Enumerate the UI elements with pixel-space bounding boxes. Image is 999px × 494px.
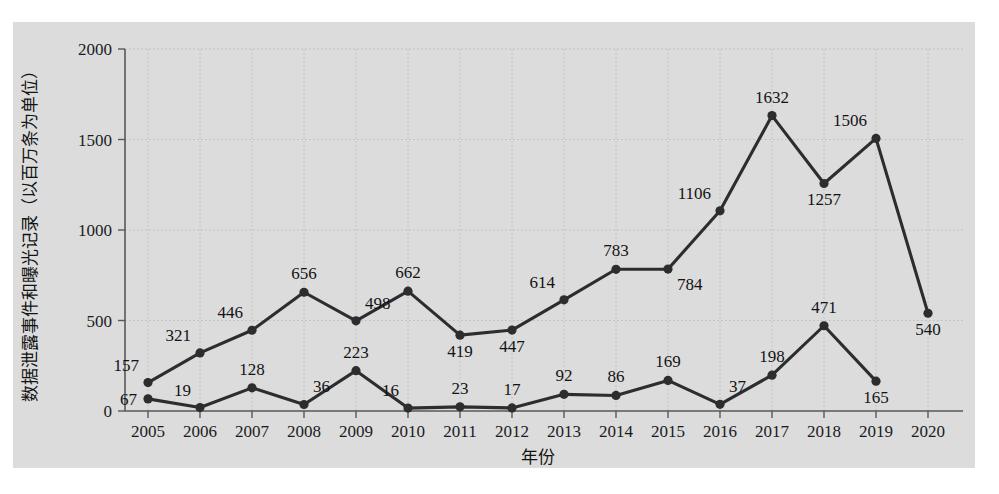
data-point-label: 16 xyxy=(382,381,399,400)
data-point-label: 1257 xyxy=(807,190,842,209)
data-point-marker xyxy=(351,316,360,325)
data-point-marker xyxy=(767,371,776,380)
data-point-marker xyxy=(871,377,880,386)
x-axis-tick-label: 2010 xyxy=(391,422,425,441)
data-point-marker xyxy=(195,348,204,357)
data-point-label: 36 xyxy=(313,377,330,396)
data-point-marker xyxy=(923,309,932,318)
data-point-marker xyxy=(403,404,412,413)
data-point-label: 540 xyxy=(915,320,941,339)
data-point-label: 614 xyxy=(530,273,556,292)
y-axis-tick-label: 2000 xyxy=(78,40,112,59)
data-point-marker xyxy=(871,134,880,143)
data-point-marker xyxy=(299,400,308,409)
data-point-marker xyxy=(819,179,828,188)
data-point-marker xyxy=(559,390,568,399)
data-point-label: 784 xyxy=(677,275,703,294)
data-point-marker xyxy=(143,394,152,403)
data-point-marker xyxy=(351,366,360,375)
data-point-marker xyxy=(507,325,516,334)
line-chart: 1573214466564986624194476147837841106163… xyxy=(0,0,999,494)
x-axis-tick-label: 2020 xyxy=(911,422,945,441)
x-axis-tick-label: 2014 xyxy=(599,422,634,441)
x-axis-tick-label: 2015 xyxy=(651,422,685,441)
x-axis-tick-label: 2008 xyxy=(287,422,321,441)
y-axis-tick-label: 1500 xyxy=(78,131,112,150)
data-point-marker xyxy=(559,295,568,304)
data-point-label: 128 xyxy=(239,360,265,379)
data-point-marker xyxy=(663,264,672,273)
x-axis-tick-label: 2019 xyxy=(859,422,893,441)
data-point-label: 1506 xyxy=(833,111,867,130)
data-point-marker xyxy=(455,402,464,411)
x-axis-tick-label: 2012 xyxy=(495,422,529,441)
data-point-marker xyxy=(403,287,412,296)
data-point-marker xyxy=(507,403,516,412)
data-point-label: 498 xyxy=(365,294,391,313)
data-point-label: 17 xyxy=(504,380,522,399)
data-point-label: 1106 xyxy=(678,184,711,203)
data-point-label: 446 xyxy=(218,303,244,322)
data-point-label: 23 xyxy=(452,379,469,398)
data-point-label: 1632 xyxy=(755,88,789,107)
x-axis-tick-label: 2005 xyxy=(131,422,165,441)
data-point-label: 165 xyxy=(863,388,889,407)
data-point-label: 447 xyxy=(499,337,525,356)
data-point-marker xyxy=(715,400,724,409)
data-point-marker xyxy=(715,206,724,215)
x-axis-tick-label: 2007 xyxy=(235,422,270,441)
x-axis-tick-label: 2009 xyxy=(339,422,373,441)
data-point-marker xyxy=(819,321,828,330)
data-point-marker xyxy=(767,111,776,120)
x-axis-tick-label: 2017 xyxy=(755,422,790,441)
data-point-label: 37 xyxy=(729,377,747,396)
data-point-marker xyxy=(611,391,620,400)
x-axis-tick-label: 2013 xyxy=(547,422,581,441)
data-point-marker xyxy=(143,378,152,387)
data-point-label: 471 xyxy=(811,298,837,317)
x-axis-tick-label: 2006 xyxy=(183,422,217,441)
data-point-label: 86 xyxy=(608,367,625,386)
data-point-label: 662 xyxy=(395,263,421,282)
x-axis-tick-label: 2018 xyxy=(807,422,841,441)
y-axis-tick-label: 500 xyxy=(87,312,113,331)
y-axis-tick-label: 0 xyxy=(104,402,113,421)
data-point-label: 656 xyxy=(291,264,317,283)
data-point-marker xyxy=(247,326,256,335)
data-point-marker xyxy=(663,376,672,385)
data-point-label: 783 xyxy=(603,241,629,260)
x-axis-tick-label: 2016 xyxy=(703,422,737,441)
data-point-marker xyxy=(455,331,464,340)
data-point-marker xyxy=(611,265,620,274)
data-point-marker xyxy=(247,383,256,392)
data-point-label: 321 xyxy=(166,326,192,345)
data-point-label: 67 xyxy=(120,390,138,409)
data-point-label: 92 xyxy=(556,366,573,385)
data-point-label: 198 xyxy=(759,347,785,366)
figure-page: 1573214466564986624194476147837841106163… xyxy=(0,0,999,494)
data-point-marker xyxy=(299,288,308,297)
data-point-marker xyxy=(195,403,204,412)
series-lines xyxy=(148,116,928,408)
data-point-label: 19 xyxy=(174,381,191,400)
y-axis-tick-label: 1000 xyxy=(78,221,112,240)
data-point-label: 157 xyxy=(114,356,140,375)
series-line-0 xyxy=(148,116,928,383)
data-point-labels: 1573214466564986624194476147837841106163… xyxy=(114,88,941,409)
data-point-label: 169 xyxy=(655,352,681,371)
gridlines xyxy=(125,49,963,411)
data-point-label: 419 xyxy=(447,342,473,361)
x-axis-tick-label: 2011 xyxy=(443,422,476,441)
data-point-label: 223 xyxy=(343,343,369,362)
